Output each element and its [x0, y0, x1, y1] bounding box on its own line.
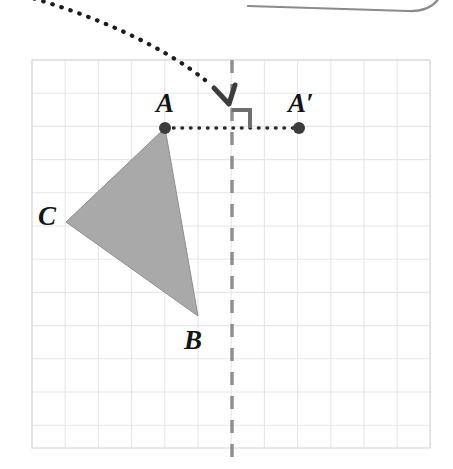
point-A-dot [159, 122, 171, 134]
geometry-figure [0, 0, 453, 469]
right-angle-marker [232, 110, 250, 128]
curved-arrow-head-icon [214, 85, 235, 104]
reflection-figure-stage: A A′ B C [0, 0, 453, 469]
point-label-A: A [156, 90, 174, 117]
rounded-panel-bottom-edge [248, 0, 440, 11]
point-label-A-prime: A′ [288, 90, 314, 117]
point-label-B: B [184, 327, 202, 354]
point-label-C: C [38, 203, 56, 230]
dotted-curved-arrow [25, 0, 205, 80]
point-A-prime-dot [293, 122, 305, 134]
